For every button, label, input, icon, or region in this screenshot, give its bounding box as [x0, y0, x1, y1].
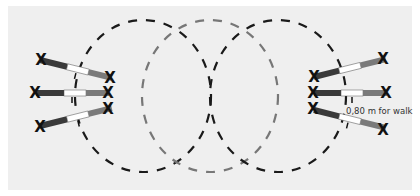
right-bar-group: X X X X X X: [307, 50, 392, 139]
walk-distance-annotation: 0,80 m for walk: [346, 106, 412, 116]
right-bar-middle: [314, 90, 387, 103]
left-bar-middle: [36, 90, 109, 103]
right-bar-top: [313, 56, 386, 80]
marker-x: X: [377, 121, 389, 139]
left-bar-group: X X X X X X: [29, 51, 116, 136]
marker-x: X: [307, 100, 319, 118]
marker-x: X: [29, 84, 41, 102]
marker-x: X: [34, 118, 46, 136]
marker-x: X: [377, 50, 389, 68]
marker-x: X: [102, 100, 114, 118]
marker-x: X: [380, 84, 392, 102]
marker-x: X: [35, 51, 47, 69]
circle-diagram: X X X X X X X X X X: [0, 0, 420, 196]
